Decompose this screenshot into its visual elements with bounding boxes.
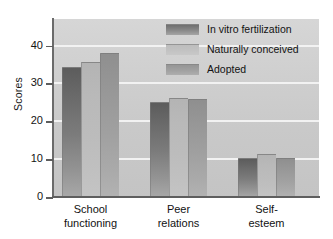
bar-0-2	[100, 53, 119, 197]
legend-item-adopted: Adopted	[166, 61, 299, 77]
legend-item-in-vitro-fertilization: In vitro fertilization	[166, 21, 299, 37]
y-tick-label-10: 10	[3, 152, 43, 164]
legend-swatch-icon-series-2	[166, 64, 199, 75]
y-tick-label-30: 30	[3, 76, 43, 88]
bar-2-2	[276, 158, 295, 197]
x-axis-line	[52, 196, 320, 198]
bar-2-1	[257, 154, 276, 197]
y-tick-label-40: 40	[3, 39, 43, 51]
legend-item-naturally-conceived: Naturally conceived	[166, 41, 299, 57]
y-tick-mark-20	[46, 121, 53, 123]
chart-legend: In vitro fertilization Naturally conceiv…	[166, 21, 299, 81]
bar-1-1	[169, 98, 188, 197]
y-tick-mark-40	[46, 46, 53, 48]
y-tick-mark-30	[46, 83, 53, 85]
bar-1-0	[150, 102, 169, 197]
grouped-bar-chart: Scores 010203040 SchoolfunctioningPeerre…	[0, 0, 333, 239]
bar-2-0	[238, 158, 257, 197]
legend-label-series-0: In vitro fertilization	[207, 23, 292, 35]
bar-0-1	[81, 62, 100, 197]
y-tick-mark-0	[46, 197, 53, 199]
legend-swatch-icon-series-0	[166, 24, 199, 35]
x-axis-label-line: Self-	[212, 203, 322, 217]
legend-label-series-1: Naturally conceived	[207, 43, 299, 55]
y-tick-label-20: 20	[3, 114, 43, 126]
legend-swatch-icon-series-1	[166, 44, 199, 55]
x-axis-label-group-2: Self-esteem	[212, 203, 322, 230]
y-tick-label-0: 0	[3, 190, 43, 202]
bar-0-0	[62, 67, 81, 197]
legend-label-series-2: Adopted	[207, 63, 246, 75]
y-tick-mark-10	[46, 159, 53, 161]
bar-1-2	[188, 99, 207, 197]
x-axis-label-line: esteem	[212, 217, 322, 231]
